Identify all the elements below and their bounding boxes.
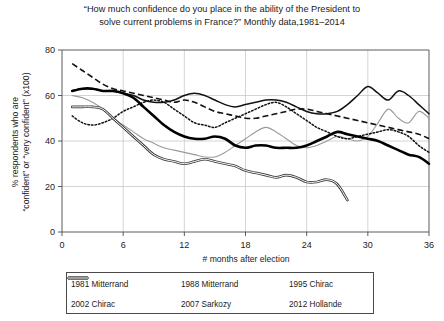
legend-item-2012-hollande[interactable]: 2012 Hollande — [289, 300, 377, 309]
y-tick-labels: 020406080 — [45, 45, 55, 237]
data-series — [72, 64, 429, 201]
axis-ticks — [58, 50, 429, 236]
chart-legend: 1981 Mitterrand1988 Mitterrand1995 Chira… — [66, 272, 374, 314]
legend-item-2002-chirac[interactable]: 2002 Chirac — [71, 300, 181, 309]
legend-label: 2007 Sarkozy — [181, 300, 231, 309]
chart-figure: “How much confidence do you place in the… — [0, 0, 444, 321]
y-tick-label: 60 — [45, 91, 55, 101]
y-tick-label: 20 — [45, 182, 55, 192]
y-tick-label: 80 — [45, 45, 55, 55]
x-tick-label: 36 — [424, 240, 434, 250]
x-tick-labels: 061218243036 — [59, 240, 434, 250]
y-axis-title-line-1: % respondents who are — [10, 97, 20, 188]
y-tick-label: 0 — [50, 227, 55, 237]
legend-label: 1988 Mitterrand — [181, 280, 238, 289]
legend-label: 1995 Chirac — [289, 280, 333, 289]
x-tick-label: 30 — [363, 240, 373, 250]
x-tick-label: 18 — [240, 240, 250, 250]
legend-item-1995-chirac[interactable]: 1995 Chirac — [289, 280, 377, 289]
x-tick-label: 6 — [121, 240, 126, 250]
x-tick-label: 24 — [302, 240, 312, 250]
legend-item-2007-sarkozy[interactable]: 2007 Sarkozy — [181, 300, 289, 309]
x-tick-label: 12 — [179, 240, 189, 250]
x-tick-label: 0 — [59, 240, 64, 250]
y-tick-label: 40 — [45, 136, 55, 146]
series-line — [72, 64, 429, 139]
legend-label: 2012 Hollande — [289, 300, 342, 309]
y-axis-title-line-2: “confident” or “very confident” (x100) — [21, 72, 31, 211]
legend-label: 2002 Chirac — [71, 300, 115, 309]
legend-swatch-double-gray — [67, 273, 89, 283]
legend-item-1988-mitterrand[interactable]: 1988 Mitterrand — [181, 280, 289, 289]
x-axis-title: # months after election — [203, 254, 290, 264]
